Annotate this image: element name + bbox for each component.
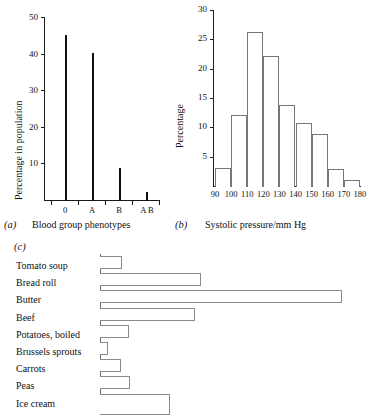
panel-c-category-label: Brussels sprouts	[16, 346, 81, 357]
panel-a-y-tick-label: 20	[18, 123, 38, 132]
panel-c-category-label: Potatoes, boiled	[16, 329, 80, 340]
panel-c-bar	[100, 256, 122, 269]
panel-c-category-label: Butter	[16, 294, 41, 305]
panel-a-bar	[65, 35, 67, 202]
panel-a-y-tick-label: 30	[18, 86, 38, 95]
panel-c-category-label: Tomato soup	[16, 260, 68, 271]
panel-b-y-tick-label: 25	[185, 34, 207, 43]
panel-b-y-tick-label: 15	[185, 93, 207, 102]
panel-a-bar	[119, 168, 121, 201]
panel-c-bar	[100, 376, 130, 389]
panel-c-letter: (c)	[14, 241, 26, 252]
panel-a-x-tick	[159, 201, 160, 205]
panel-b-letter: (b)	[175, 219, 187, 230]
panel-c-category-label: Peas	[16, 380, 34, 391]
panel-c-bar	[100, 342, 108, 355]
panel-b-y-tick-label: 10	[185, 122, 207, 131]
panel-a-x-axis-line	[44, 200, 160, 201]
panel-b-bar	[231, 115, 247, 187]
panel-a-chart: Percentage in population 50 40 30 20 10 …	[0, 0, 181, 232]
panel-b-bar	[215, 168, 231, 187]
panel-a-x-tick-label: A B	[136, 206, 158, 215]
panel-b-y-tick	[210, 10, 214, 11]
panel-a-x-tick	[51, 201, 52, 205]
panel-a-y-axis-title: Percentage in population	[14, 101, 24, 200]
panel-b-bar	[312, 134, 328, 187]
panel-b-y-tick-label: 20	[185, 64, 207, 73]
panel-b-y-tick	[210, 157, 214, 158]
panel-a-y-tick	[41, 17, 45, 18]
panel-a-y-tick-label: 50	[18, 13, 38, 22]
panel-b-bar	[328, 169, 344, 187]
panel-b-y-tick	[210, 69, 214, 70]
panel-b-y-axis-title: Percentage	[175, 104, 185, 148]
panel-a-bar	[92, 53, 94, 201]
panel-a-x-tick	[132, 201, 133, 205]
panel-c-bar	[100, 394, 170, 415]
panel-c-bar	[100, 359, 121, 372]
panel-c-bar	[100, 325, 129, 338]
panel-b-x-tick-label: 180	[350, 190, 370, 199]
panel-b-y-tick	[210, 98, 214, 99]
panel-a-y-tick-label: 40	[18, 50, 38, 59]
panel-b-y-tick-label: 5	[185, 152, 207, 161]
panel-c-category-label: Beef	[16, 312, 35, 323]
panel-b-bar	[247, 32, 263, 187]
panel-a-x-axis-title: Blood group phenotypes	[32, 219, 130, 230]
panel-a-y-tick	[41, 127, 45, 128]
panel-c-bar	[100, 290, 342, 303]
panel-a-x-tick	[105, 201, 106, 205]
panel-c-chart: (c) Tomato soup Bread roll Butter Beef P…	[0, 240, 362, 415]
panel-b-bar	[263, 56, 279, 187]
panel-c-bar	[100, 273, 201, 286]
panel-b-x-axis-title: Systolic pressure/mm Hg	[205, 219, 306, 230]
panel-c-category-label: Ice cream	[16, 398, 55, 409]
panel-b-bar	[279, 105, 295, 187]
panel-a-x-tick-label: B	[109, 206, 129, 215]
panel-a-y-tick	[41, 163, 45, 164]
panel-a-x-tick-label: 0	[55, 206, 75, 215]
panel-b-y-tick-label: 30	[185, 5, 207, 14]
panel-a-y-tick	[41, 54, 45, 55]
panel-c-bar	[100, 308, 195, 321]
panel-a-letter: (a)	[4, 219, 16, 230]
panel-a-y-axis-line	[44, 17, 45, 201]
panel-b-chart: Percentage 30 25 20 15 10 5 90 100 110 1…	[181, 0, 362, 232]
panel-a-y-tick-label: 10	[18, 159, 38, 168]
panel-b-y-tick	[210, 39, 214, 40]
panel-a-y-tick	[41, 90, 45, 91]
panel-c-category-label: Carrots	[16, 363, 45, 374]
panel-a-x-tick	[78, 201, 79, 205]
panel-a-bar	[146, 192, 148, 201]
panel-a-x-tick-label: A	[82, 206, 102, 215]
panel-b-y-tick	[210, 127, 214, 128]
panel-b-bar	[344, 180, 360, 187]
panel-c-category-label: Bread roll	[16, 277, 56, 288]
panel-b-bar	[296, 123, 312, 188]
